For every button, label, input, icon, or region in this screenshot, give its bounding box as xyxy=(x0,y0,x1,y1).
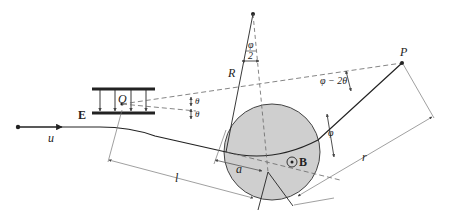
label-theta-upper: θ xyxy=(195,96,200,106)
label-r: r xyxy=(362,150,367,164)
label-R: R xyxy=(227,66,236,80)
label-phi-half-num: φ xyxy=(248,39,254,50)
label-O: O xyxy=(118,92,127,106)
b-field-dot xyxy=(291,161,294,164)
label-E: E xyxy=(78,108,86,122)
dashed-upper-line xyxy=(122,63,402,104)
label-a: a xyxy=(236,162,242,176)
diagram-canvas: u E O θ θ φ 2 R φ − 2θ P φ B r l a xyxy=(0,0,449,210)
label-B: B xyxy=(299,155,307,169)
label-theta-lower: θ xyxy=(195,109,200,119)
dashed-axis-line xyxy=(122,104,196,111)
label-phi-minus-2theta: φ − 2θ xyxy=(320,75,347,86)
magnetic-field-region xyxy=(224,104,320,200)
deflection-diagram: u E O θ θ φ 2 R φ − 2θ P φ B r l a xyxy=(0,0,449,210)
label-u: u xyxy=(48,131,54,145)
label-phi: φ xyxy=(328,127,334,138)
label-P: P xyxy=(399,45,408,59)
label-phi-half-den: 2 xyxy=(248,50,253,61)
